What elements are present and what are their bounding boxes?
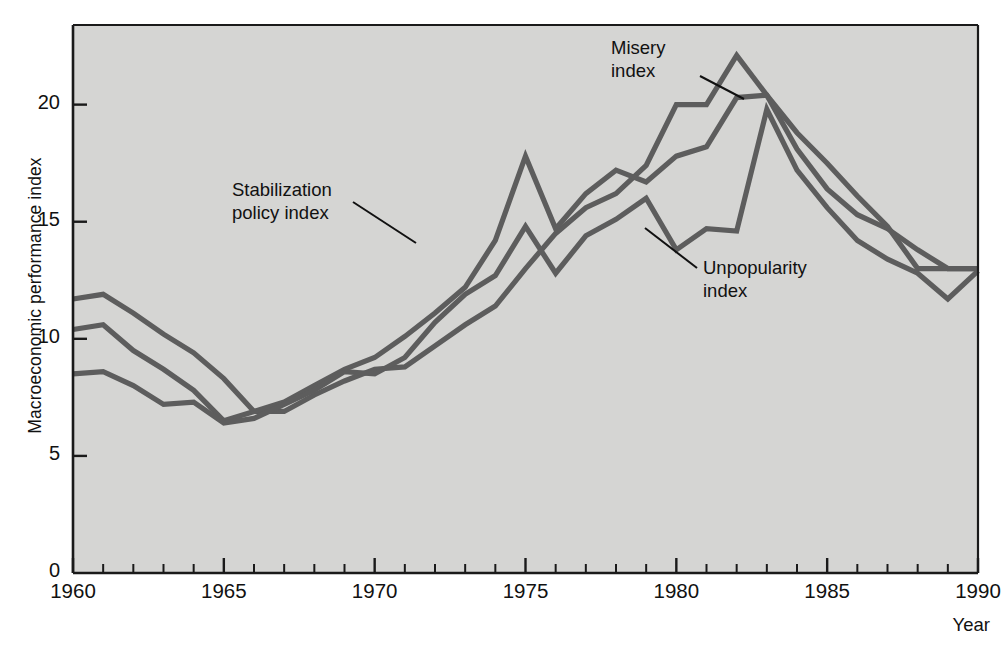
- plot-background: [73, 25, 978, 573]
- x-tick-label: 1980: [631, 579, 721, 603]
- y-tick-label: 15: [14, 208, 60, 231]
- y-tick-label: 5: [14, 442, 60, 465]
- y-tick-label: 10: [14, 325, 60, 348]
- stabilization-policy-index-label: Stabilization policy index: [232, 179, 332, 224]
- misery-index-label: Misery index: [611, 37, 665, 82]
- y-axis-label: Macroeconomic performance index: [25, 46, 46, 546]
- x-tick-label: 1960: [28, 579, 118, 603]
- y-tick-label: 20: [14, 91, 60, 114]
- chart-figure: Macroeconomic performance index 05101520…: [0, 0, 1008, 656]
- x-tick-label: 1990: [933, 579, 1008, 603]
- chart-plot-svg: [0, 0, 1008, 656]
- x-tick-label: 1965: [179, 579, 269, 603]
- x-axis-label: Year: [953, 614, 990, 636]
- x-tick-label: 1985: [782, 579, 872, 603]
- x-tick-label: 1975: [481, 579, 571, 603]
- unpopularity-index-label: Unpopularity index: [703, 257, 807, 302]
- x-tick-label: 1970: [330, 579, 420, 603]
